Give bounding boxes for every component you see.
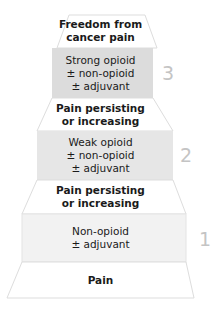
top-label-line2: cancer pain <box>0 31 201 44</box>
bottom-label: Pain <box>0 274 201 287</box>
step-2-line3: ± adjuvant <box>0 162 201 175</box>
top-label: Freedom from cancer pain <box>0 18 201 44</box>
step-1-line1: Non-opioid <box>0 225 201 238</box>
step-2-label: Weak opioid ± non-opioid ± adjuvant <box>0 136 201 175</box>
step-1-number: 1 <box>199 228 211 250</box>
step-2-number: 2 <box>180 144 192 166</box>
step-1-line2: ± adjuvant <box>0 238 201 251</box>
bottom-label-text: Pain <box>0 274 201 287</box>
top-label-line1: Freedom from <box>0 18 201 31</box>
transition-2-line1: Pain persisting <box>0 184 201 197</box>
transition-1-line2: or increasing <box>0 115 201 128</box>
transition-1-label: Pain persisting or increasing <box>0 102 201 128</box>
transition-2-label: Pain persisting or increasing <box>0 184 201 210</box>
transition-1-line1: Pain persisting <box>0 102 201 115</box>
step-2-line2: ± non-opioid <box>0 149 201 162</box>
step-1-label: Non-opioid ± adjuvant <box>0 225 201 251</box>
step-2-line1: Weak opioid <box>0 136 201 149</box>
transition-2-line2: or increasing <box>0 197 201 210</box>
step-3-number: 3 <box>162 62 174 84</box>
